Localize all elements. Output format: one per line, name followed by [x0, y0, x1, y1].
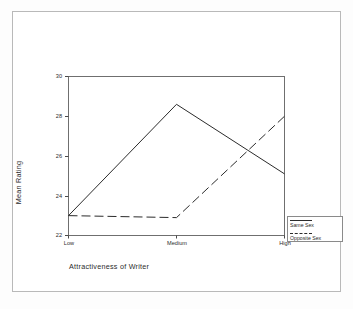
plot-frame	[69, 77, 285, 236]
y-tick-label-24: 24	[48, 193, 62, 199]
y-tick-label-28: 28	[48, 113, 62, 119]
legend-entry-same-sex: Same Sex	[288, 217, 344, 230]
legend-label-same-sex: Same Sex	[290, 222, 314, 228]
x-axis-title: Attractiveness of Writer	[69, 262, 149, 271]
legend-swatch-solid-icon	[290, 220, 312, 221]
y-tick-marks	[65, 77, 69, 236]
y-tick-label-22: 22	[48, 232, 62, 238]
legend-entry-opposite-sex: Opposite Sex	[288, 230, 344, 243]
y-axis-title: Mean Rating	[14, 143, 23, 223]
legend: Same Sex Opposite Sex	[287, 216, 343, 242]
x-tick-label-medium: Medium	[157, 240, 197, 246]
y-tick-label-30: 30	[48, 73, 62, 79]
y-tick-label-26: 26	[48, 153, 62, 159]
legend-swatch-dashed-icon	[290, 233, 312, 234]
series-line-opposite-sex	[69, 116, 285, 217]
x-tick-label-low: Low	[49, 240, 89, 246]
figure-canvas: 30 28 26 24 22 Low Medium High Attractiv…	[0, 0, 353, 309]
legend-label-opposite-sex: Opposite Sex	[290, 235, 321, 241]
series-line-same-sex	[69, 104, 285, 215]
